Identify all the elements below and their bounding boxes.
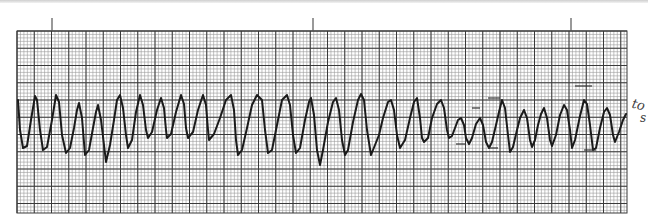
handwritten-annotation-line2: s bbox=[640, 112, 646, 124]
ecg-strip bbox=[0, 0, 648, 221]
minor-grid bbox=[17, 31, 627, 213]
time-marker-ticks bbox=[52, 18, 571, 31]
handwritten-annotation-line1: to bbox=[631, 97, 646, 112]
